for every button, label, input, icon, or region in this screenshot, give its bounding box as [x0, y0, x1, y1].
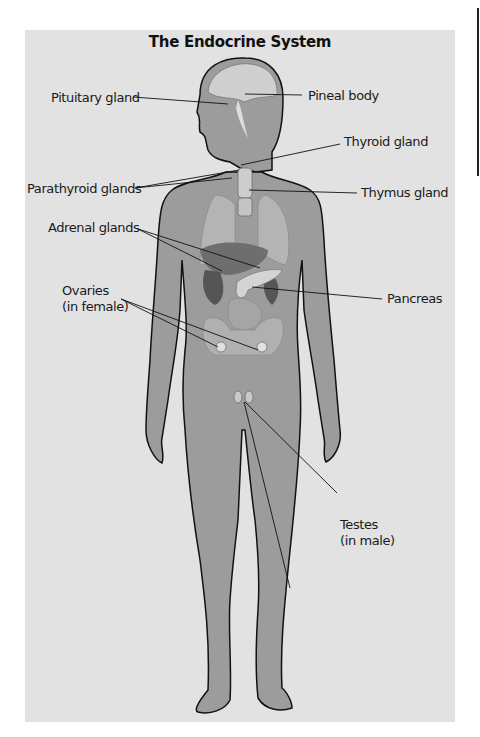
body-silhouette	[146, 58, 340, 713]
label-pineal-body: Pineal body	[308, 88, 379, 104]
label-testes-line1: Testes	[340, 517, 395, 533]
label-adrenal-glands: Adrenal glands	[48, 220, 139, 236]
label-thymus-gland: Thymus gland	[361, 185, 448, 201]
thymus-gland	[238, 198, 252, 216]
label-ovaries: Ovaries (in female)	[62, 283, 129, 315]
label-testes: Testes (in male)	[340, 517, 395, 549]
label-parathyroid-glands: Parathyroid glands	[27, 181, 141, 197]
right-testis	[245, 391, 253, 403]
label-pituitary-gland: Pituitary gland	[51, 90, 140, 106]
page-edge-bar	[477, 8, 479, 176]
diagram-panel: The Endocrine System	[25, 30, 455, 722]
left-testis	[234, 391, 242, 403]
label-testes-line2: (in male)	[340, 533, 395, 549]
label-ovaries-line1: Ovaries	[62, 283, 129, 299]
label-ovaries-line2: (in female)	[62, 299, 129, 315]
label-thyroid-gland: Thyroid gland	[344, 134, 428, 150]
label-pancreas: Pancreas	[387, 291, 442, 307]
right-ovary	[257, 342, 267, 352]
thyroid-gland	[238, 168, 252, 198]
